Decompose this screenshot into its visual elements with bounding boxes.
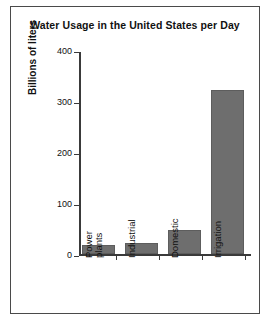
y-tick-label: 0 xyxy=(67,250,72,260)
y-tick-label: 200 xyxy=(57,148,72,158)
chart-title: Water Usage in the United States per Day xyxy=(11,19,259,31)
y-tick-mark xyxy=(74,205,79,206)
y-tick-label: 400 xyxy=(57,46,72,56)
x-tick-mark xyxy=(159,255,160,260)
x-category-label: Industrial xyxy=(127,219,137,258)
x-tick-mark xyxy=(116,255,117,260)
x-axis-line xyxy=(79,254,251,256)
y-tick-label: 100 xyxy=(57,199,72,209)
plot-area: 0100200300400 xyxy=(79,52,251,256)
y-axis-line xyxy=(79,52,81,256)
x-category-label: Powerplants xyxy=(84,231,104,258)
y-tick-label: 300 xyxy=(57,97,72,107)
chart-frame: Water Usage in the United States per Day… xyxy=(10,6,260,314)
x-tick-mark xyxy=(245,255,246,260)
y-tick-mark xyxy=(74,52,79,53)
x-category-label-line: plants xyxy=(94,231,104,258)
y-tick-mark xyxy=(74,154,79,155)
x-tick-mark xyxy=(202,255,203,260)
y-axis-title: Billions of liters xyxy=(27,20,38,95)
y-tick-mark xyxy=(74,103,79,104)
x-category-label: Domestic xyxy=(170,218,180,258)
x-category-label: Irrigation xyxy=(213,221,223,258)
y-tick-mark xyxy=(74,256,79,257)
chart-page: Water Usage in the United States per Day… xyxy=(0,0,272,327)
x-category-label-line: Power xyxy=(83,231,94,258)
